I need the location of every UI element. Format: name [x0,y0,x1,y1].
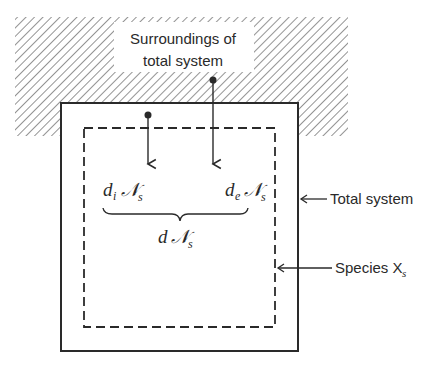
svg-text:s: s [261,190,266,204]
species-label-subscript: s [402,267,406,279]
svg-text:e: e [235,189,241,203]
surroundings-label-line2: total system [143,52,223,69]
svg-text:s: s [138,190,143,204]
surroundings-label-line1: Surroundings of [130,30,237,47]
svg-text:d: d [103,179,113,200]
svg-text:d: d [158,226,168,247]
svg-text:d: d [225,179,235,200]
total-system-pointer [301,195,327,203]
species-label: Species X [335,259,403,276]
total-system-label: Total system [330,190,413,207]
diagram-canvas: Surroundings of total system d i 𝒩 s d e… [0,0,444,366]
svg-text:i: i [113,189,116,203]
svg-text:s: s [188,237,193,251]
